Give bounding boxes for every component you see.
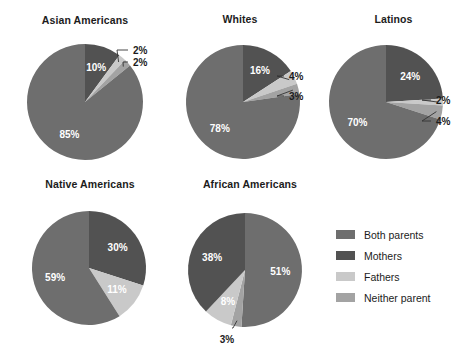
slice-value-label: 4% xyxy=(436,116,451,127)
slice-value-label: 16% xyxy=(250,65,270,76)
slice-value-label: 4% xyxy=(289,71,304,82)
pie-chart: 24%70%2%4% xyxy=(318,13,469,188)
legend-item[interactable]: Neither parent xyxy=(336,287,431,308)
chart-legend: Both parentsMothersFathersNeither parent xyxy=(336,224,431,308)
pie-chart: 51%8%38%3% xyxy=(170,178,330,352)
legend-swatch-icon xyxy=(336,251,355,260)
slice-value-label: 85% xyxy=(59,129,79,140)
slice-value-label: 78% xyxy=(210,123,230,134)
slice-value-label: 10% xyxy=(86,62,106,73)
slice-value-label: 38% xyxy=(202,252,222,263)
slice-value-label: 2% xyxy=(133,57,148,68)
slice-value-label: 2% xyxy=(133,45,148,56)
slice-value-label: 8% xyxy=(221,296,236,307)
legend-swatch-icon xyxy=(336,272,355,281)
slice-value-label: 24% xyxy=(400,71,420,82)
slice-value-label: 11% xyxy=(107,284,127,295)
legend-item[interactable]: Mothers xyxy=(336,245,431,266)
slice-value-label: 2% xyxy=(436,95,451,106)
slice-value-label: 3% xyxy=(220,334,235,345)
legend-item-label: Fathers xyxy=(364,271,400,283)
pie-chart: 30%11%59% xyxy=(10,178,170,352)
legend-item-label: Both parents xyxy=(364,229,424,241)
slice-value-label: 70% xyxy=(347,117,367,128)
legend-item[interactable]: Both parents xyxy=(336,224,431,245)
legend-item-label: Neither parent xyxy=(364,292,431,304)
slice-value-label: 51% xyxy=(270,266,290,277)
slice-value-label: 3% xyxy=(289,91,304,102)
legend-swatch-icon xyxy=(336,230,355,239)
pie-chart: 10%85%2%2% xyxy=(5,14,165,189)
slice-value-label: 30% xyxy=(108,242,128,253)
legend-item-label: Mothers xyxy=(364,250,402,262)
slice-value-label: 59% xyxy=(45,272,65,283)
legend-item[interactable]: Fathers xyxy=(336,266,431,287)
pie-chart: 16%78%4%3% xyxy=(165,13,315,188)
legend-swatch-icon xyxy=(336,293,355,302)
